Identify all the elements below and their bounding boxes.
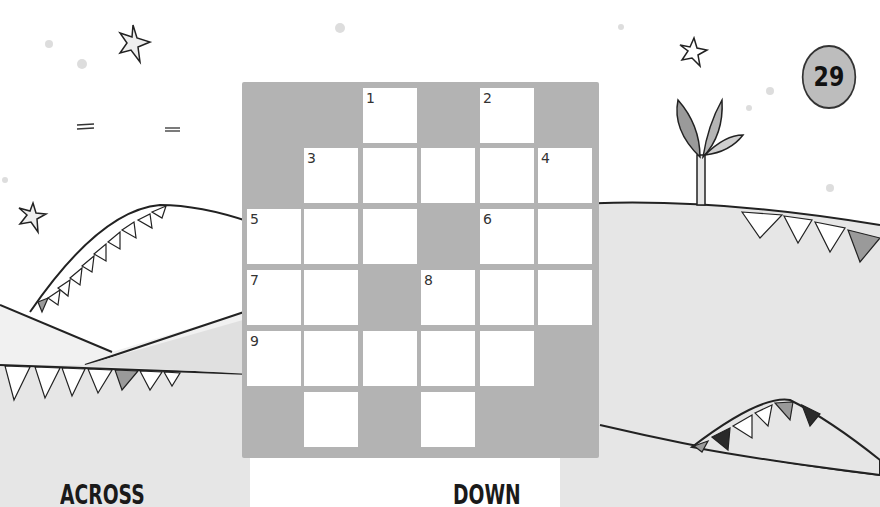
crossword-cell[interactable]	[480, 331, 534, 386]
crossword-cell[interactable]: 3	[304, 148, 358, 203]
crossword-cell[interactable]	[538, 270, 592, 325]
crossword-cell[interactable]	[421, 392, 475, 447]
crossword-cell[interactable]	[421, 331, 475, 386]
crossword-cell[interactable]: 4	[538, 148, 592, 203]
crossword-cell[interactable]	[363, 331, 417, 386]
crossword-cell[interactable]	[480, 148, 534, 203]
across-heading: ACROSS	[60, 480, 145, 507]
crossword-grid: 123456789	[242, 82, 599, 458]
crossword-cell[interactable]	[304, 209, 358, 264]
crossword-cell[interactable]	[304, 392, 358, 447]
crossword-cell[interactable]: 9	[247, 331, 301, 386]
clue-number: 8	[424, 273, 433, 287]
crossword-cell[interactable]	[421, 148, 475, 203]
clue-number: 3	[307, 151, 316, 165]
crossword-cell[interactable]: 7	[247, 270, 301, 325]
clue-number: 2	[483, 91, 492, 105]
crossword-cell[interactable]	[363, 148, 417, 203]
down-heading: DOWN	[453, 480, 521, 507]
crossword-cell[interactable]	[480, 270, 534, 325]
crossword-cell[interactable]	[538, 209, 592, 264]
crossword-cell[interactable]: 1	[363, 88, 417, 143]
crossword-cell[interactable]	[304, 331, 358, 386]
crossword-cell[interactable]: 8	[421, 270, 475, 325]
clue-number: 4	[541, 151, 550, 165]
clue-number: 7	[250, 273, 259, 287]
crossword-cell[interactable]	[304, 270, 358, 325]
crossword-cell[interactable]: 5	[247, 209, 301, 264]
page-number-badge: 29	[802, 45, 856, 109]
clue-number: 9	[250, 334, 259, 348]
crossword-cell[interactable]	[363, 209, 417, 264]
crossword-cell[interactable]: 2	[480, 88, 534, 143]
clue-number: 1	[366, 91, 375, 105]
crossword-cell[interactable]: 6	[480, 209, 534, 264]
clue-number: 6	[483, 212, 492, 226]
clue-number: 5	[250, 212, 259, 226]
